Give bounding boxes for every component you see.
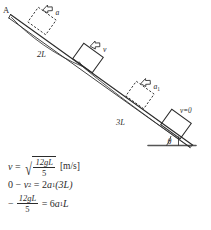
eq3-fraction: 12gL 5	[17, 194, 38, 213]
label-accel-upper: a	[56, 8, 60, 17]
eq3-minus: −	[8, 199, 14, 209]
eq3-numerator: 12gL	[17, 194, 38, 203]
eq1-lhs: v	[8, 162, 12, 172]
label-angle-theta: θ	[168, 137, 172, 146]
eq2-minus: −	[16, 180, 22, 190]
equation-block: v = √ 12gL 5 [m/s] 0 − v2 = 2a1 (3L) −	[8, 156, 128, 213]
eq1-equals: =	[15, 162, 21, 172]
arrow-velocity-mid-icon	[90, 41, 100, 49]
label-velocity-mid: v	[103, 45, 107, 54]
eq2-zero: 0	[8, 180, 13, 190]
eq2-paren: (3L)	[55, 180, 72, 190]
label-point-a-visible: A	[3, 5, 10, 15]
eq3-denominator: 5	[17, 203, 38, 213]
label-distance-upper: 2L	[37, 50, 46, 59]
eq1-radicand: 12gL 5	[32, 156, 55, 177]
eq2-equals: =	[34, 180, 40, 190]
label-distance-lower: 3L	[115, 118, 125, 127]
span-arc-3l	[83, 67, 191, 148]
eq1-radical: √ 12gL 5	[24, 156, 56, 177]
incline-top-edge	[9, 15, 11, 19]
eq1-unit: [m/s]	[60, 162, 80, 172]
equation-line-1: v = √ 12gL 5 [m/s]	[8, 156, 128, 177]
eq3-L: L	[63, 199, 69, 209]
incline-surface	[11, 15, 193, 146]
eq1-fraction: 12gL 5	[33, 158, 54, 177]
label-accel-lower-subscript: 1	[157, 86, 160, 92]
block-middle-solid	[73, 43, 104, 72]
figure-root: a v a1 v=0 A A 2L 3L θ	[0, 0, 211, 230]
eq1-denominator: 5	[33, 167, 54, 177]
radical-sign-icon: √	[25, 156, 32, 177]
equation-line-3: − 12gL 5 = 6a1L	[8, 194, 128, 213]
eq1-numerator: 12gL	[33, 158, 54, 167]
label-accel-lower: a1	[154, 82, 161, 92]
eq3-equals: =	[42, 199, 48, 209]
arrow-accel-upper-icon	[43, 5, 53, 13]
equation-line-2: 0 − v2 = 2a1 (3L)	[8, 180, 128, 190]
label-final-velocity: v=0	[180, 107, 192, 115]
arrow-accel-lower-icon	[141, 78, 151, 86]
